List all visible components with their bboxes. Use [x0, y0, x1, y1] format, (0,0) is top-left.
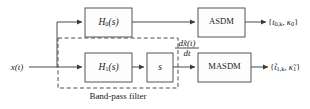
block-h0-arg: (s) — [109, 17, 119, 28]
asdm-output-label: {t0,k, κ0} — [268, 16, 298, 27]
asdm-output-close: } — [294, 16, 298, 26]
input-signal-label: x(t) — [10, 62, 24, 72]
block-h1-label: H1(s) — [97, 62, 118, 73]
block-masdm-label: MASDM — [208, 61, 241, 71]
masdm-output-label: {t̃1,k, κ̃1} — [270, 61, 300, 72]
masdm-output-close: } — [296, 61, 300, 71]
block-h1-arg: (s) — [109, 62, 119, 73]
band-pass-filter-caption: Band-pass filter — [89, 91, 146, 101]
input-signal-arg: (t) — [15, 62, 24, 72]
block-h0-label: H0(s) — [97, 17, 118, 28]
derivative-numerator: dx̃(t) — [179, 38, 196, 48]
derivative-denominator: dt — [183, 48, 191, 58]
block-s-label: s — [158, 62, 162, 72]
block-diagram-figure: x(t) H0(s) H1(s) s ASDM MASDM dx̃(t) dt … — [0, 0, 310, 109]
diagram-canvas: x(t) H0(s) H1(s) s ASDM MASDM dx̃(t) dt … — [0, 0, 310, 109]
block-asdm-label: ASDM — [209, 16, 234, 26]
